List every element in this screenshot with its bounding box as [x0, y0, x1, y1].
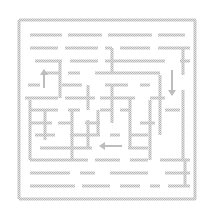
maze-wall-horizontal: [30, 122, 52, 125]
maze-wall-horizontal: [110, 134, 120, 137]
maze-wall-horizontal: [120, 185, 140, 188]
maze-wall-horizontal: [120, 47, 150, 50]
maze-wall-horizontal: [168, 185, 190, 188]
maze-wall-horizontal: [95, 159, 120, 162]
maze-wall-horizontal: [150, 185, 160, 188]
maze-wall-horizontal: [158, 34, 185, 37]
maze-wall-horizontal: [130, 159, 148, 162]
maze-wall-horizontal: [100, 109, 112, 112]
maze-wall-horizontal: [62, 84, 82, 87]
maze-wall-horizontal: [105, 60, 165, 63]
maze-wall-horizontal: [58, 122, 72, 125]
left-arrow-icon: [99, 142, 122, 150]
maze-wall-vertical: [71, 110, 74, 160]
maze-wall-horizontal: [150, 97, 165, 100]
maze-wall-horizontal: [19, 19, 196, 22]
maze-wall-horizontal: [105, 84, 128, 87]
maze-wall-horizontal: [95, 72, 160, 75]
maze-wall-vertical: [111, 85, 114, 123]
maze-wall-horizontal: [68, 34, 102, 37]
maze-wall-horizontal: [30, 185, 75, 188]
maze-board: [0, 0, 211, 218]
maze-wall-horizontal: [140, 122, 155, 125]
maze-wall-horizontal: [130, 134, 148, 137]
maze-wall-horizontal: [110, 172, 148, 175]
maze-wall-horizontal: [80, 172, 95, 175]
maze-wall-horizontal: [35, 60, 62, 63]
maze-wall-vertical: [129, 98, 132, 148]
maze-walls: [18, 19, 197, 201]
maze-wall-vertical: [194, 20, 197, 199]
maze-wall-vertical: [87, 120, 90, 148]
maze-wall-horizontal: [65, 97, 95, 100]
maze-wall-vertical: [182, 90, 185, 160]
maze-wall-vertical: [59, 60, 62, 98]
maze-wall-horizontal: [30, 47, 58, 50]
maze-wall-vertical: [159, 75, 162, 135]
maze-wall-vertical: [44, 110, 47, 140]
maze-wall-horizontal: [25, 97, 58, 100]
maze-wall-horizontal: [68, 72, 80, 75]
maze-wall-vertical: [111, 48, 114, 73]
maze-wall-vertical: [97, 110, 100, 135]
maze-wall-horizontal: [19, 198, 196, 201]
maze-wall-horizontal: [108, 34, 152, 37]
maze-wall-vertical: [182, 48, 185, 75]
maze-wall-horizontal: [158, 47, 190, 50]
maze-wall-horizontal: [70, 134, 100, 137]
maze-wall-vertical: [29, 100, 32, 160]
maze-wall-horizontal: [68, 109, 80, 112]
maze-wall-vertical: [87, 85, 90, 110]
maze-wall-horizontal: [165, 109, 180, 112]
maze-wall-horizontal: [65, 47, 98, 50]
maze-wall-vertical: [18, 20, 21, 199]
maze-wall-horizontal: [30, 172, 70, 175]
maze-wall-horizontal: [140, 84, 150, 87]
maze-wall-horizontal: [70, 60, 98, 63]
maze-wall-vertical: [184, 160, 187, 186]
maze-wall-vertical: [149, 100, 152, 160]
maze-wall-horizontal: [30, 34, 62, 37]
maze-wall-horizontal: [82, 185, 110, 188]
maze-wall-horizontal: [28, 84, 40, 87]
maze-wall-horizontal: [40, 147, 92, 150]
down-arrow-icon: [168, 70, 176, 96]
maze-wall-horizontal: [30, 159, 88, 162]
